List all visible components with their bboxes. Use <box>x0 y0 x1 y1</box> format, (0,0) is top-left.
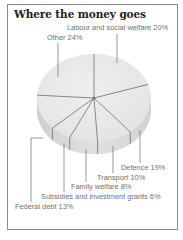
label-defence: Defence 19% <box>121 164 165 172</box>
label-family-welfare: Family welfare 8% <box>71 183 131 191</box>
label-subsidies: Subsidies and investment grants 6% <box>41 193 161 201</box>
label-transport: Transport 10% <box>97 174 145 182</box>
pie-center <box>93 97 96 100</box>
label-federal-debt: Federal debt 13% <box>15 203 73 211</box>
label-other: Other 24% <box>47 34 82 42</box>
label-labour: Labour and social welfare 20% <box>67 24 168 32</box>
